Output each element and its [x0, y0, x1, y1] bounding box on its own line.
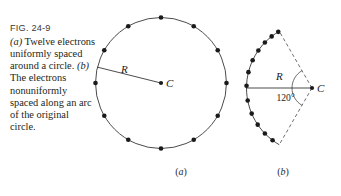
electron-dot [263, 131, 268, 136]
electron-dot [126, 24, 131, 29]
center-dot-b [310, 86, 314, 90]
electron-dot [224, 81, 229, 86]
electron-dot [270, 138, 275, 143]
panel-label-b: (b) [277, 166, 289, 178]
electron-dot [246, 70, 251, 75]
electron-dot [245, 98, 250, 103]
electron-dots-b [244, 30, 280, 143]
panel-b-group: R 120° C (b) [244, 30, 325, 178]
radius-label-b: R [275, 70, 283, 82]
electron-dot [191, 24, 196, 29]
radius-line-a [97, 67, 161, 83]
figure-page: FIG. 24-9 (a) Twelve electrons uniformly… [0, 0, 341, 196]
angle-label-b: 120° [277, 92, 295, 103]
electron-dot [215, 48, 220, 53]
electron-dot [159, 146, 164, 151]
center-label-b: C [317, 82, 325, 94]
electron-dot [126, 137, 131, 142]
electron-dot [159, 15, 164, 20]
figure-graphic: R C (a) R 120° C (b) [0, 0, 341, 196]
electron-dot [102, 48, 107, 53]
electron-dot [102, 113, 107, 118]
electron-dot [263, 40, 268, 45]
center-label-a: C [166, 77, 174, 89]
electron-dot [276, 30, 281, 35]
panel-a-group: R C (a) [93, 15, 229, 178]
electron-dot [244, 83, 249, 88]
electron-dot [215, 113, 220, 118]
electron-dot [249, 111, 254, 116]
radius-label-a: R [120, 63, 128, 75]
panel-label-a: (a) [175, 166, 187, 178]
electron-dot [191, 137, 196, 142]
sector-edge-upper-b [279, 31, 312, 88]
electron-dot [256, 48, 261, 53]
electron-dot [250, 58, 255, 63]
electron-dot [255, 122, 260, 127]
center-dot-a [159, 81, 163, 85]
electron-dot [269, 34, 274, 39]
electron-dot [93, 81, 98, 86]
